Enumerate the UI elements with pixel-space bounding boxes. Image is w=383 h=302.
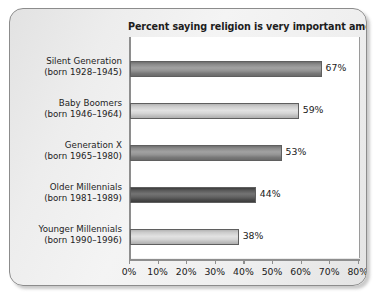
category-name: Older Millennials xyxy=(10,182,122,193)
x-tick-mark xyxy=(129,260,130,264)
bar xyxy=(130,145,282,161)
category-label: Generation X(born 1965–1980) xyxy=(10,140,122,163)
category-name: Silent Generation xyxy=(10,56,122,67)
category-label: Baby Boomers(born 1946–1964) xyxy=(10,98,122,121)
bar xyxy=(130,187,256,203)
x-tick-mark xyxy=(158,260,159,264)
bar-value-label: 53% xyxy=(286,146,307,157)
x-tick-mark xyxy=(186,260,187,264)
category-birth-years: (born 1928–1945) xyxy=(10,67,122,78)
category-label: Younger Millennials(born 1990–1996) xyxy=(10,224,122,247)
bar-row: Older Millennials(born 1981–1989)44% xyxy=(10,179,367,223)
bar-row: Generation X(born 1965–1980)53% xyxy=(10,137,367,181)
category-birth-years: (born 1981–1989) xyxy=(10,193,122,204)
category-name: Generation X xyxy=(10,140,122,151)
x-tick-mark xyxy=(272,260,273,264)
bar-value-label: 44% xyxy=(260,188,281,199)
bar xyxy=(130,229,239,245)
category-birth-years: (born 1946–1964) xyxy=(10,109,122,120)
x-tick-label: 80% xyxy=(338,266,367,277)
x-tick-mark xyxy=(329,260,330,264)
bar-value-label: 59% xyxy=(303,104,324,115)
chart-title: Percent saying religion is very importan… xyxy=(128,21,360,32)
category-name: Younger Millennials xyxy=(10,224,122,235)
category-label: Silent Generation(born 1928–1945) xyxy=(10,56,122,79)
bar xyxy=(130,61,322,77)
bar xyxy=(130,103,299,119)
bar-value-label: 67% xyxy=(326,62,347,73)
x-tick-mark xyxy=(301,260,302,264)
chart-card: Percent saying religion is very importan… xyxy=(9,8,367,286)
x-tick-mark xyxy=(358,260,359,264)
x-tick-mark xyxy=(215,260,216,264)
category-label: Older Millennials(born 1981–1989) xyxy=(10,182,122,205)
category-birth-years: (born 1990–1996) xyxy=(10,235,122,246)
category-birth-years: (born 1965–1980) xyxy=(10,151,122,162)
bar-row: Silent Generation(born 1928–1945)67% xyxy=(10,53,367,97)
category-name: Baby Boomers xyxy=(10,98,122,109)
bar-row: Baby Boomers(born 1946–1964)59% xyxy=(10,95,367,139)
bar-value-label: 38% xyxy=(243,230,264,241)
x-tick-mark xyxy=(243,260,244,264)
